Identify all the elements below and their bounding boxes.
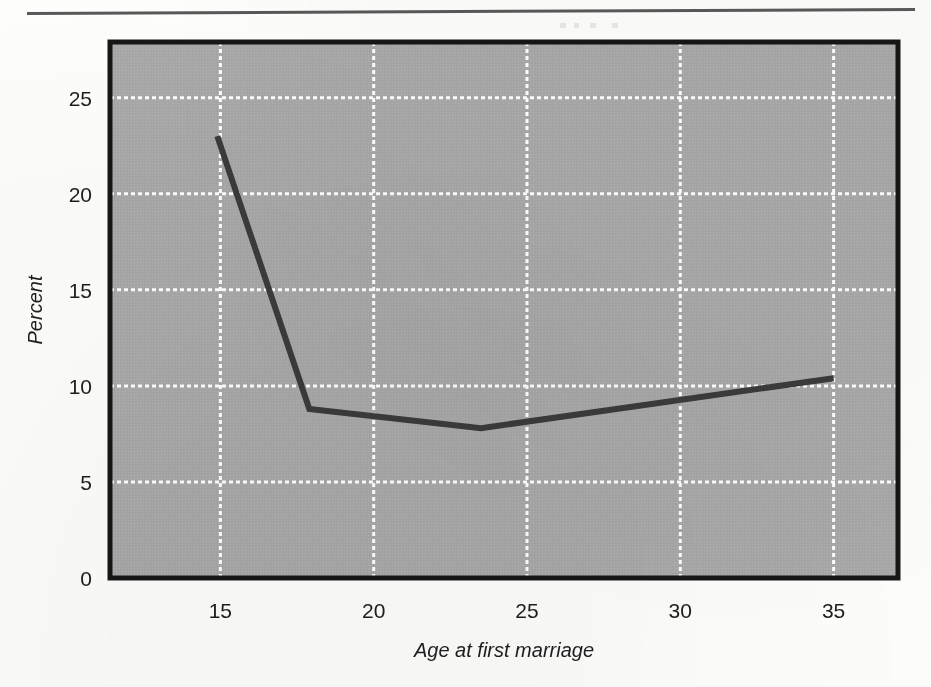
y-axis-tick-labels: 0510152025 <box>69 87 92 590</box>
plot-background <box>110 42 898 578</box>
plot-area <box>110 42 898 578</box>
x-tick-15: 15 <box>209 599 232 622</box>
x-tick-35: 35 <box>822 599 845 622</box>
scanned-page: 0510152025 1520253035 Percent Age at fir… <box>0 0 931 687</box>
y-axis-title: Percent <box>24 274 46 344</box>
line-chart: 0510152025 1520253035 Percent Age at fir… <box>0 0 931 687</box>
y-tick-25: 25 <box>69 87 92 110</box>
chart-figure: 0510152025 1520253035 Percent Age at fir… <box>0 0 931 687</box>
x-axis-tick-labels: 1520253035 <box>209 599 846 622</box>
x-tick-25: 25 <box>515 599 538 622</box>
y-tick-20: 20 <box>69 183 92 206</box>
x-tick-20: 20 <box>362 599 385 622</box>
y-tick-5: 5 <box>80 471 92 494</box>
y-tick-0: 0 <box>80 567 92 590</box>
x-tick-30: 30 <box>669 599 692 622</box>
y-tick-15: 15 <box>69 279 92 302</box>
x-axis-title: Age at first marriage <box>413 639 594 661</box>
y-tick-10: 10 <box>69 375 92 398</box>
